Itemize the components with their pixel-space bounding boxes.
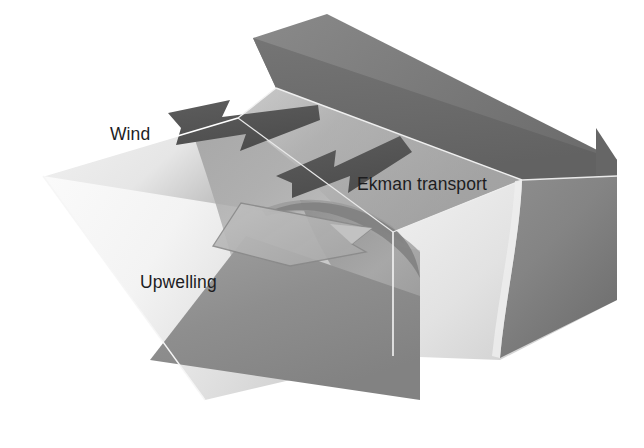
wind-label: Wind (110, 124, 150, 144)
upwelling-label: Upwelling (140, 272, 217, 292)
ekman-transport-label: Ekman transport (357, 174, 487, 194)
diagram-canvas: Wind Ekman transport Upwelling (0, 0, 644, 448)
upwelling-diagram-svg: Wind Ekman transport Upwelling (0, 0, 644, 448)
